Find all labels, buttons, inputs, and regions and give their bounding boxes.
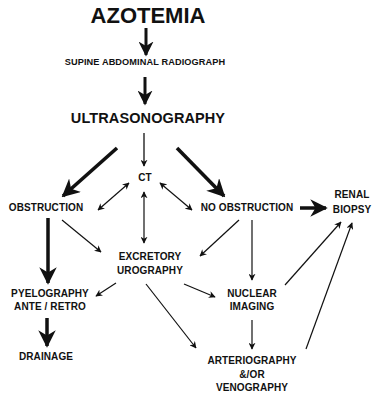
node-nuclear-imaging: NUCLEAR IMAGING <box>227 288 277 312</box>
arrow-no-obstruction-excretory <box>200 220 239 256</box>
node-renal-biopsy: RENAL BIOPSY <box>333 189 371 215</box>
node-label-line2: ANTE / RETRO <box>11 301 89 313</box>
node-label: SUPINE ABDOMINAL RADIOGRAPH <box>65 57 225 67</box>
node-label-line2: &/OR <box>207 369 296 381</box>
node-label-line1: PYELOGRAPHY <box>11 288 89 300</box>
node-ct: CT <box>138 172 152 184</box>
arrow-obstruction-excretory <box>62 220 101 252</box>
node-label-line3: VENOGRAPHY <box>207 382 296 394</box>
node-label: OBSTRUCTION <box>9 202 83 213</box>
arrow-arteriography-renal-biopsy <box>306 223 352 349</box>
arrow-ct-no-obstruction <box>160 183 192 210</box>
node-label: CT <box>138 172 152 183</box>
node-supine-abdominal-radiograph: SUPINE ABDOMINAL RADIOGRAPH <box>65 57 225 68</box>
node-label: ULTRASONOGRAPHY <box>71 110 225 126</box>
node-arteriography-venography: ARTERIOGRAPHY &/OR VENOGRAPHY <box>207 355 296 394</box>
arrow-ct-obstruction <box>98 183 129 210</box>
arrow-excretory-pyelography <box>96 283 116 296</box>
arrow-excretory-nuclear <box>184 284 215 297</box>
node-obstruction: OBSTRUCTION <box>9 202 83 214</box>
node-label: DRAINAGE <box>19 351 73 362</box>
node-excretory-urography: EXCRETORY UROGRAPHY <box>117 251 183 276</box>
node-label: NO OBSTRUCTION <box>201 202 294 213</box>
node-label-line1: NUCLEAR <box>227 288 277 300</box>
node-label-line2: BIOPSY <box>333 204 371 216</box>
node-label-line1: EXCRETORY <box>117 251 183 263</box>
arrow-excretory-arteriography <box>146 284 196 348</box>
node-label-line2: IMAGING <box>227 301 277 313</box>
node-ultrasonography: ULTRASONOGRAPHY <box>71 110 225 127</box>
node-label-line2: UROGRAPHY <box>117 265 183 277</box>
node-drainage: DRAINAGE <box>19 351 73 363</box>
arrow-ultrasonography-no-obstruction <box>177 148 224 196</box>
node-no-obstruction: NO OBSTRUCTION <box>201 202 294 214</box>
node-pyelography: PYELOGRAPHY ANTE / RETRO <box>11 288 89 312</box>
node-azotemia: AZOTEMIA <box>91 3 206 28</box>
arrow-ultrasonography-obstruction <box>63 148 117 196</box>
node-label-line1: ARTERIOGRAPHY <box>207 355 296 367</box>
node-label-line1: RENAL <box>333 189 371 201</box>
